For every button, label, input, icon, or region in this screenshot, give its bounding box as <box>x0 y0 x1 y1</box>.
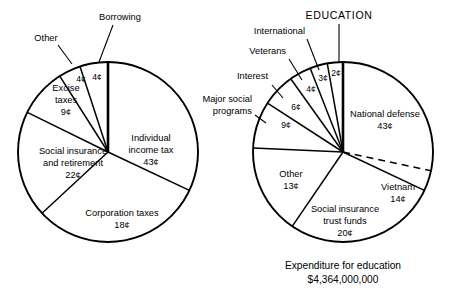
left-label-excise-taxes-line2: taxes <box>55 95 78 105</box>
left-label-excise-taxes-line1: Excise <box>52 83 79 93</box>
right-label-major-social-line2: programs <box>213 106 253 116</box>
right-label-social-trust-line2: trust funds <box>323 216 367 226</box>
right-label-social-trust-line1: Social insurance <box>311 204 379 214</box>
left-leader-borrowing <box>99 25 113 62</box>
left-label-individual-income-tax-line1: Individual <box>131 133 170 143</box>
figure-canvas: Individual income tax 43¢ Corporation ta… <box>0 0 455 290</box>
caption-line-2: $4,364,000,000 <box>308 274 379 285</box>
right-label-international-value: 3¢ <box>318 73 328 83</box>
left-label-other-value: 4¢ <box>76 74 86 84</box>
pie-chart-figure: Individual income tax 43¢ Corporation ta… <box>0 0 455 290</box>
right-label-national-defense-name: National defense <box>350 109 420 119</box>
left-label-borrowing-name: Borrowing <box>99 12 141 22</box>
right-label-international-name: International <box>254 26 305 36</box>
right-label-interest-name: Interest <box>237 71 268 81</box>
figure-caption: Expenditure for education $4,364,000,000 <box>285 260 401 285</box>
left-label-corporation-taxes-name: Corporation taxes <box>85 208 159 218</box>
right-label-veterans-value: 4¢ <box>306 84 316 94</box>
right-label-vietnam-value: 14¢ <box>390 194 406 204</box>
left-label-corporation-taxes-value: 18¢ <box>114 220 130 230</box>
caption-line-1: Expenditure for education <box>285 260 401 271</box>
right-label-veterans-name: Veterans <box>249 46 286 56</box>
left-label-individual-income-tax-value: 43¢ <box>143 157 159 167</box>
left-label-other-name: Other <box>34 33 57 43</box>
right-label-major-social-line1: Major social <box>202 94 252 104</box>
right-pie-chart: National defense 43¢ Vietnam 14¢ Social … <box>202 9 433 242</box>
right-label-national-defense-value: 43¢ <box>377 121 393 131</box>
right-label-interest-value: 6¢ <box>291 102 301 112</box>
left-label-social-insurance-line2: and retirement <box>43 158 103 168</box>
left-label-social-insurance-value: 22¢ <box>65 170 81 180</box>
right-label-other-name: Other <box>279 169 302 179</box>
right-label-vietnam-name: Vietnam <box>381 182 415 192</box>
left-label-excise-taxes-value: 9¢ <box>61 107 71 117</box>
right-label-other-value: 13¢ <box>283 181 299 191</box>
left-label-individual-income-tax-line2: income tax <box>129 145 174 155</box>
left-label-borrowing-value: 4¢ <box>92 72 102 82</box>
left-pie-chart: Individual income tax 43¢ Corporation ta… <box>18 12 198 242</box>
right-label-major-social-value: 9¢ <box>281 120 291 130</box>
right-label-education-value: 2¢ <box>331 68 341 78</box>
right-label-education-name: EDUCATION <box>305 9 372 21</box>
left-leader-other <box>58 45 72 64</box>
right-leader-international <box>307 39 319 70</box>
left-label-social-insurance-line1: Social insurance <box>39 146 107 156</box>
right-label-social-trust-value: 20¢ <box>337 228 353 238</box>
